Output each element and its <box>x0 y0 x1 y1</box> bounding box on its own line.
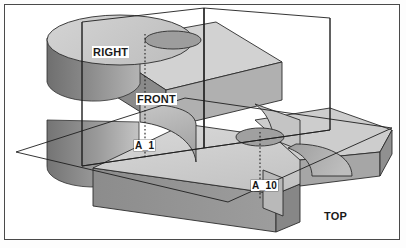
cad-isometric-viewport[interactable]: RIGHT FRONT TOP A_1 A_10 <box>0 0 406 248</box>
notch-rib-face <box>263 170 283 216</box>
datum-plane-label-right[interactable]: RIGHT <box>92 46 129 58</box>
datum-plane-label-front[interactable]: FRONT <box>136 93 177 105</box>
datum-axis-label-a10[interactable]: A_10 <box>251 180 278 191</box>
datum-axis-label-a1[interactable]: A_1 <box>134 140 155 151</box>
datum-plane-label-top[interactable]: TOP <box>323 210 348 222</box>
upper-cylinder-through-hole[interactable] <box>145 31 201 49</box>
